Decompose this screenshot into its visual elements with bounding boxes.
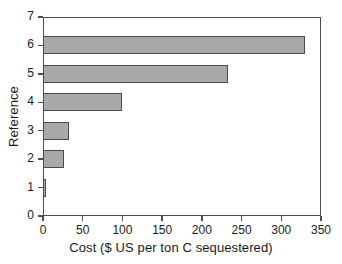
y-tick-label: 1 [10, 180, 34, 194]
y-tick-label: 7 [10, 9, 34, 23]
y-tick [38, 187, 43, 188]
y-tick-label: 4 [10, 94, 34, 108]
x-tick [122, 216, 123, 221]
bar-reference-5 [43, 65, 228, 83]
y-tick-label: 0 [10, 208, 34, 222]
bar-reference-1 [43, 179, 46, 197]
x-tick-label: 100 [102, 223, 142, 237]
x-tick [320, 216, 321, 221]
x-tick [281, 216, 282, 221]
y-tick-label: 3 [10, 123, 34, 137]
bar-reference-3 [43, 122, 69, 140]
y-tick [38, 215, 43, 216]
x-axis-title: Cost ($ US per ton C sequestered) [0, 240, 342, 255]
x-tick [161, 216, 162, 221]
x-tick-label: 250 [222, 223, 262, 237]
y-tick [38, 73, 43, 74]
y-tick [38, 158, 43, 159]
bar-chart-figure: Reference 05010015020025030035001234567 … [0, 0, 342, 264]
y-tick [38, 45, 43, 46]
x-tick-label: 150 [142, 223, 182, 237]
y-tick-label: 2 [10, 151, 34, 165]
y-tick-label: 5 [10, 66, 34, 80]
bar-reference-4 [43, 93, 122, 111]
x-tick-label: 300 [261, 223, 301, 237]
y-tick [38, 102, 43, 103]
x-tick [42, 216, 43, 221]
x-tick [82, 216, 83, 221]
x-tick [201, 216, 202, 221]
y-tick [38, 130, 43, 131]
y-tick-label: 6 [10, 37, 34, 51]
bar-reference-6 [43, 36, 305, 54]
x-tick [241, 216, 242, 221]
bar-reference-2 [43, 150, 64, 168]
x-tick-label: 350 [301, 223, 341, 237]
x-tick-label: 200 [182, 223, 222, 237]
x-tick-label: 0 [23, 223, 63, 237]
y-tick [38, 16, 43, 17]
x-tick-label: 50 [63, 223, 103, 237]
